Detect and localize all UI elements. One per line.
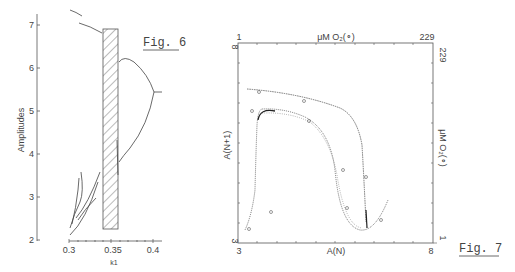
fig7-top-tick-229: 229: [419, 32, 434, 42]
fig6-hatched-region: [103, 29, 118, 229]
fig6-curve-low4: [70, 182, 98, 235]
fig7-top-tick-1: 1: [236, 32, 241, 42]
fig7-inner-curve-2: [262, 113, 362, 228]
figure-panel: 7 6 5 4 3 2 Amplitudes 0.3 0.35 0.4 k1: [0, 0, 515, 272]
fig7-right-tick-229: 229: [438, 47, 448, 62]
fig6-ytick-5: 5: [29, 106, 34, 116]
fig6-ytick-3: 3: [29, 192, 34, 202]
fig6-curve-bifurcation-upper: [119, 59, 162, 93]
fig6-xtick-0.4: 0.4: [147, 245, 160, 255]
fig6-ytick-6: 6: [29, 63, 34, 73]
fig7-xtick-8: 8: [428, 246, 433, 256]
fig6-xtick-0.3: 0.3: [63, 245, 76, 255]
fig7-chart: 1 229 μM O₂(∘) 8 3 A(N+1) 229 1 μM O₂(∘)…: [222, 32, 502, 256]
fig7-x-label: A(N): [327, 246, 346, 256]
fig7-left-tick-3: 3: [230, 238, 240, 243]
fig7-top-label: μM O₂(∘): [317, 32, 355, 42]
fig6-y-label: Amplitudes: [16, 107, 26, 152]
fig7-xtick-3: 3: [236, 246, 241, 256]
fig7-frame: [238, 43, 433, 243]
fig6-caption: Fig. 6: [143, 36, 186, 50]
fig6-curve-low1: [70, 172, 82, 228]
fig7-circles: [248, 91, 383, 231]
fig6-curve-top1: [70, 10, 82, 16]
fig7-caption: Fig. 7: [459, 242, 502, 256]
fig7-y-label: A(N+1): [222, 131, 232, 160]
fig6-curve-top2: [79, 23, 102, 33]
fig7-right-ticks: [431, 63, 437, 243]
fig7-curves: [245, 89, 388, 230]
fig6-xtick-0.35: 0.35: [104, 245, 122, 255]
fig6-ytick-7: 7: [29, 20, 34, 30]
fig6-y-ticks: [37, 25, 40, 240]
fig7-right-label: μM O₂(∘): [438, 129, 448, 167]
fig6-ytick-2: 2: [29, 235, 34, 245]
fig6-curve-bifurcation-lower: [119, 92, 154, 162]
fig6-curve-low2: [72, 178, 79, 224]
fig6-x-label: k1: [110, 259, 118, 266]
fig6-curve-low3: [76, 172, 100, 218]
fig6-chart: 7 6 5 4 3 2 Amplitudes 0.3 0.35 0.4 k1: [16, 10, 186, 266]
fig7-dense-corner: [258, 110, 275, 120]
fig7-right-tick-1: 1: [438, 235, 448, 240]
fig7-dense-bottom: [366, 210, 367, 228]
fig7-left-tick-8: 8: [230, 44, 240, 49]
fig6-ytick-4: 4: [29, 149, 34, 159]
